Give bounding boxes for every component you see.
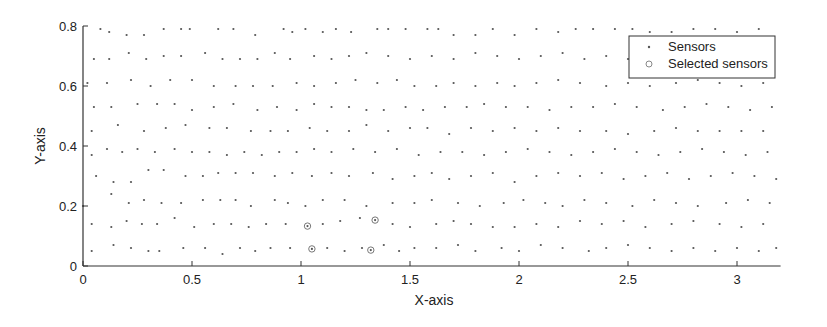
sensor-point	[296, 151, 298, 153]
sensor-point	[653, 199, 655, 201]
sensor-point	[474, 250, 476, 252]
sensor-point	[313, 55, 315, 57]
sensor-point	[147, 169, 149, 171]
sensor-point	[435, 247, 437, 249]
sensor-point	[365, 124, 367, 126]
sensor-point	[330, 106, 332, 108]
sensor-point	[287, 130, 289, 132]
sensor-point	[762, 130, 764, 132]
sensor-point	[311, 175, 313, 177]
sensor-point	[605, 55, 607, 57]
sensor-point	[470, 127, 472, 129]
sensor-point	[208, 151, 210, 153]
sensor-point	[457, 244, 459, 246]
sensor-point	[217, 28, 219, 30]
sensor-point	[269, 130, 271, 132]
sensor-point	[311, 248, 313, 250]
sensor-point	[723, 151, 725, 153]
sensor-point	[252, 85, 254, 87]
sensor-point	[184, 124, 186, 126]
sensor-point	[579, 220, 581, 222]
sensor-point	[261, 154, 263, 156]
sensor-point	[535, 28, 537, 30]
sensor-point	[627, 133, 629, 135]
sensor-point	[453, 220, 455, 222]
y-tick-label: 0.2	[59, 199, 77, 214]
sensor-point	[248, 226, 250, 228]
sensor-point	[557, 31, 559, 33]
sensor-point	[344, 250, 346, 252]
sensor-point	[352, 148, 354, 150]
sensor-point	[747, 199, 749, 201]
sensor-point	[492, 172, 494, 174]
y-tick-label: 0.8	[59, 19, 77, 34]
sensor-point	[326, 130, 328, 132]
sensor-point	[370, 249, 372, 251]
sensor-point	[736, 247, 738, 249]
sensor-point	[252, 172, 254, 174]
sensor-point	[579, 175, 581, 177]
x-tick-label: 0.5	[183, 272, 201, 287]
sensor-point	[431, 55, 433, 57]
sensor-point	[636, 106, 638, 108]
sensor-point	[439, 151, 441, 153]
x-axis-label: X-axis	[415, 292, 454, 308]
sensor-point	[276, 106, 278, 108]
sensor-point	[91, 154, 93, 156]
sensor-point	[128, 52, 130, 54]
sensor-point	[136, 103, 138, 105]
sensor-point	[575, 28, 577, 30]
sensor-point	[684, 106, 686, 108]
legend-label-sensors: Sensors	[668, 39, 716, 54]
sensor-point	[250, 130, 252, 132]
sensor-point	[697, 79, 699, 81]
sensor-point	[243, 151, 245, 153]
y-tick-label: 0.6	[59, 79, 77, 94]
sensor-point	[758, 28, 760, 30]
sensor-point	[387, 28, 389, 30]
sensor-point	[174, 217, 176, 219]
sensor-point	[350, 31, 352, 33]
legend-label-selected-sensors: Selected sensors	[668, 56, 768, 71]
sensor-point	[235, 199, 237, 201]
sensor-point	[583, 58, 585, 60]
sensor-point	[291, 31, 293, 33]
sensor-point	[392, 223, 394, 225]
sensor-point	[163, 169, 165, 171]
sensor-point	[287, 202, 289, 204]
sensor-point	[522, 199, 524, 201]
sensor-point	[121, 151, 123, 153]
sensor-point	[562, 205, 564, 207]
sensor-point	[474, 34, 476, 36]
sensor-point	[557, 79, 559, 81]
x-tick-label: 1	[297, 272, 304, 287]
sensor-point	[383, 109, 385, 111]
sensor-point	[126, 34, 128, 36]
sensor-point	[514, 127, 516, 129]
sensor-point	[409, 58, 411, 60]
sensor-point	[601, 223, 603, 225]
sensor-point	[226, 127, 228, 129]
sensor-point	[583, 199, 585, 201]
sensor-point	[457, 202, 459, 204]
sensor-point	[548, 109, 550, 111]
sensor-point	[736, 31, 738, 33]
sensor-point	[675, 127, 677, 129]
sensor-point	[740, 130, 742, 132]
sensor-point	[160, 202, 162, 204]
sensor-point	[470, 175, 472, 177]
sensor-point	[644, 175, 646, 177]
sensor-point	[740, 226, 742, 228]
sensor-point	[745, 154, 747, 156]
sensor-point	[453, 82, 455, 84]
sensor-point	[322, 31, 324, 33]
sensor-point	[374, 151, 376, 153]
sensor-point	[91, 223, 93, 225]
sensor-point	[413, 175, 415, 177]
sensor-point	[191, 79, 193, 81]
sensor-point	[232, 28, 234, 30]
sensor-point	[435, 85, 437, 87]
sensor-point	[208, 127, 210, 129]
sensor-point	[392, 202, 394, 204]
sensor-point	[496, 82, 498, 84]
